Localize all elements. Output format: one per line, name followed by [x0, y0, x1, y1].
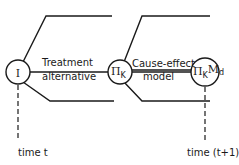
diagram-canvas: I ΠK ΠKMd Treatment alternative Cause-ef…: [0, 0, 239, 165]
edge-cause-effect-label-2: model: [143, 71, 174, 82]
lower-branch-right: [124, 82, 210, 101]
edge-treatment-label-2: alternative: [42, 71, 96, 82]
node-i: I: [6, 60, 30, 84]
upper-branch-left: [23, 16, 112, 62]
edge-cause-effect-label-1: Cause-effect: [132, 58, 195, 69]
node-pi-k: ΠK: [108, 60, 132, 84]
time-t-label: time t: [18, 147, 48, 158]
time-t-plus-1-label: time (t+1): [187, 147, 239, 158]
node-i-label: I: [16, 67, 20, 80]
upper-branch-right: [124, 16, 210, 62]
lower-branch-left: [23, 82, 114, 101]
edge-treatment-label-1: Treatment: [41, 57, 93, 68]
node-pi-k-m-d: ΠKMd: [191, 58, 224, 86]
